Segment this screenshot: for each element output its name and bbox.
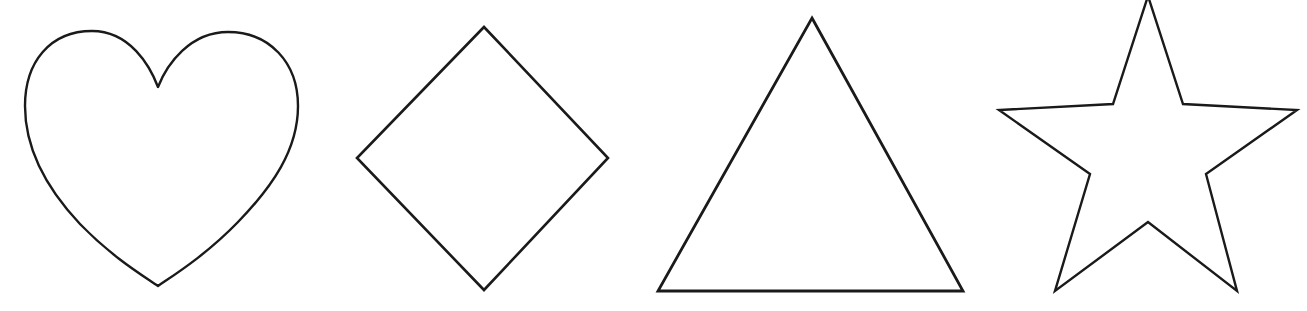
canvas-background [0, 0, 1307, 311]
shapes-canvas [0, 0, 1307, 311]
shapes-svg [0, 0, 1307, 311]
